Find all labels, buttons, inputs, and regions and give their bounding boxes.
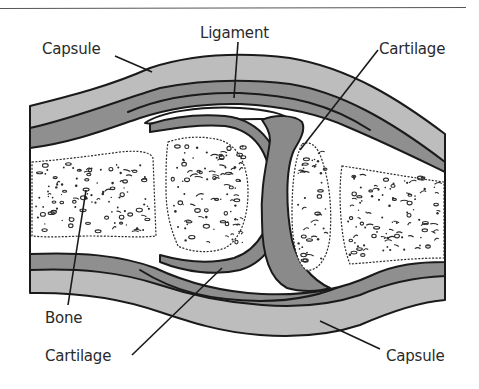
bone-pore bbox=[62, 220, 63, 221]
bone-pore bbox=[378, 199, 380, 201]
bone-pore bbox=[325, 208, 327, 210]
bone-pore bbox=[184, 227, 186, 229]
bone-pore bbox=[117, 207, 119, 209]
bone-pore bbox=[176, 167, 178, 169]
bone-pore bbox=[126, 224, 127, 225]
bone-pore bbox=[382, 194, 384, 196]
bone-pore bbox=[213, 229, 214, 230]
bone-pore bbox=[116, 164, 118, 166]
bone-pore bbox=[192, 157, 194, 159]
bone-pore bbox=[420, 237, 422, 239]
bone-pore bbox=[108, 201, 110, 203]
bone-pore bbox=[386, 233, 388, 235]
bone-pore bbox=[96, 182, 98, 184]
bone-pore bbox=[46, 169, 48, 171]
bone-pore bbox=[234, 218, 236, 220]
bone-pore bbox=[225, 166, 227, 168]
bone-pore bbox=[142, 229, 144, 231]
bone-pore bbox=[173, 205, 175, 207]
bone-pore bbox=[406, 182, 408, 184]
bone-pore bbox=[182, 159, 184, 161]
bone-pore bbox=[354, 242, 356, 244]
bone-pore bbox=[102, 193, 105, 196]
bone-pore bbox=[301, 246, 303, 248]
bone-pore bbox=[418, 219, 420, 221]
bone-pore bbox=[401, 236, 403, 238]
bone-pore bbox=[136, 227, 139, 230]
bone-pore bbox=[144, 176, 146, 178]
bone-pore bbox=[196, 147, 198, 149]
bone-pore bbox=[378, 189, 380, 191]
bone-pore bbox=[419, 245, 421, 247]
bone-pore bbox=[48, 185, 50, 187]
bone-pore bbox=[72, 167, 74, 169]
bone-pore bbox=[347, 221, 349, 223]
bone-pore bbox=[177, 186, 179, 188]
bone-pore bbox=[317, 160, 319, 162]
bone-pore bbox=[297, 242, 299, 244]
bone-pore bbox=[403, 249, 405, 251]
bone-pore bbox=[361, 200, 363, 202]
bone-pore bbox=[204, 168, 206, 170]
bone-pore bbox=[363, 244, 365, 246]
bone-pore bbox=[320, 172, 322, 174]
bone-pore bbox=[241, 233, 243, 235]
bone-pore bbox=[56, 208, 58, 210]
bone-pore bbox=[74, 206, 76, 208]
label-capsule-bottom: Capsule bbox=[386, 347, 445, 365]
bone-pore bbox=[177, 226, 179, 228]
bone-pore bbox=[143, 203, 145, 205]
bone-pore bbox=[75, 185, 78, 188]
bone-pore bbox=[384, 187, 386, 189]
bone-pore bbox=[206, 151, 208, 153]
bone-pore bbox=[61, 183, 63, 185]
bone-pore bbox=[120, 172, 122, 174]
bone-pore bbox=[48, 196, 49, 197]
bone-pore bbox=[127, 191, 129, 193]
bone-pore bbox=[306, 252, 308, 254]
bone-pore bbox=[187, 224, 189, 226]
bone-pore bbox=[55, 186, 57, 188]
bone-pore bbox=[353, 178, 355, 180]
label-capsule-top: Capsule bbox=[42, 40, 101, 58]
bone-pore bbox=[360, 186, 362, 188]
bone-pore bbox=[124, 210, 126, 212]
bone-pore bbox=[226, 155, 228, 157]
bone-pore bbox=[382, 250, 384, 252]
bone-pore bbox=[388, 204, 391, 207]
bone-pore bbox=[323, 227, 325, 229]
bone-pore bbox=[381, 216, 383, 218]
bone-pore bbox=[226, 193, 228, 195]
bone-pore bbox=[183, 193, 185, 195]
bone-pore bbox=[314, 166, 316, 168]
bone-pore bbox=[114, 222, 116, 224]
bone-pore bbox=[298, 173, 299, 174]
bone-pore bbox=[315, 164, 317, 166]
bone-pore bbox=[145, 198, 147, 200]
bone-pore bbox=[414, 198, 416, 200]
bone-pore bbox=[357, 245, 359, 247]
bone-pore bbox=[102, 191, 104, 193]
bone-pore bbox=[237, 219, 239, 221]
bone-pore bbox=[414, 195, 416, 197]
bone-pore bbox=[94, 202, 96, 204]
bone-pore bbox=[111, 197, 112, 198]
bone-pore bbox=[147, 206, 149, 208]
bone-pore bbox=[44, 173, 46, 175]
bone-pore bbox=[227, 221, 229, 223]
bone-pore bbox=[376, 231, 378, 233]
bone-pore bbox=[413, 209, 414, 210]
bone-pore bbox=[349, 254, 352, 257]
bone-pore bbox=[63, 167, 65, 169]
joint-diagram: Capsule Ligament Cartilage Bone Cartilag… bbox=[0, 0, 479, 389]
bone-pore bbox=[232, 239, 234, 241]
bone-pore bbox=[182, 181, 184, 183]
bone-pore bbox=[111, 211, 113, 213]
bone-pore bbox=[230, 211, 232, 213]
bone-pore bbox=[434, 187, 436, 189]
bone-pore bbox=[44, 223, 45, 224]
bone-pore bbox=[424, 188, 426, 190]
bone-pore bbox=[321, 182, 323, 184]
bone-pore bbox=[234, 204, 236, 206]
bone-pore bbox=[148, 208, 150, 210]
